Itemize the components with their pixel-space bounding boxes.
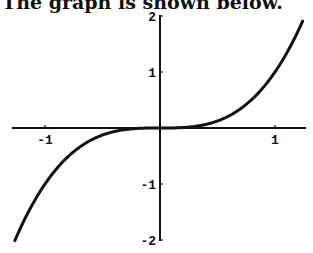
- cubic-curve: [15, 21, 303, 240]
- y-tick-label: -1: [140, 178, 156, 193]
- y-tick-label: 2: [148, 10, 156, 25]
- y-tick-label: 1: [148, 66, 156, 81]
- x-tick-label: -1: [37, 133, 53, 148]
- x-tick-label: 1: [271, 133, 279, 148]
- y-tick-label: -2: [140, 234, 156, 249]
- function-plot: -11-2-112: [0, 0, 313, 253]
